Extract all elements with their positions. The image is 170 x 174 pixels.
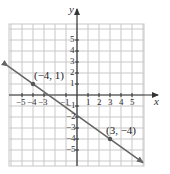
x-tick-label: 2 bbox=[97, 98, 102, 107]
y-tick-label: −2 bbox=[66, 112, 76, 121]
x-tick-label: −3 bbox=[38, 98, 48, 107]
coordinate-plane: y x −5−4−3−112345 54321−1−2−3−4−5 (−4, 1… bbox=[0, 0, 170, 174]
y-axis-label: y bbox=[69, 4, 74, 15]
x-tick-label: 1 bbox=[86, 98, 91, 107]
y-tick-label: −4 bbox=[66, 134, 76, 143]
y-tick-label: −5 bbox=[66, 145, 76, 154]
point-label-neg4-1: (−4, 1) bbox=[34, 70, 64, 81]
y-tick-label: −3 bbox=[66, 123, 76, 132]
x-tick-label: −4 bbox=[27, 98, 37, 107]
point-label-3-neg4: (3, −4) bbox=[106, 125, 136, 136]
x-tick-label: −5 bbox=[16, 98, 26, 107]
data-point bbox=[108, 137, 112, 141]
x-axis-label: x bbox=[154, 96, 159, 107]
y-tick-label: 2 bbox=[70, 68, 75, 77]
x-tick-label: 4 bbox=[119, 98, 124, 107]
x-tick-label: 3 bbox=[108, 98, 113, 107]
y-tick-label: 5 bbox=[70, 35, 75, 44]
data-point bbox=[31, 82, 35, 86]
y-tick-label: 3 bbox=[70, 57, 75, 66]
plot-area bbox=[0, 0, 170, 174]
y-tick-label: 4 bbox=[70, 46, 75, 55]
x-tick-label: 5 bbox=[130, 98, 135, 107]
axes bbox=[9, 9, 158, 166]
y-tick-label: 1 bbox=[70, 79, 75, 88]
y-tick-label: −1 bbox=[66, 101, 76, 110]
